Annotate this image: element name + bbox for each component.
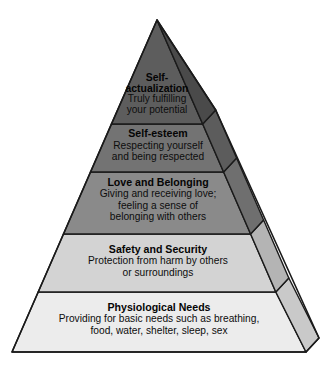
tier-desc-4-line1: Protection from harm by others <box>48 255 268 267</box>
tier-label-safety-and-security: Safety and Security Protection from harm… <box>48 243 268 279</box>
tier-title-2: Self-esteem <box>85 128 231 140</box>
tier-label-love-and-belonging: Love and Belonging Giving and receiving … <box>66 176 250 223</box>
tier-label-self-actualization: Self- actualization Truly fulfilling you… <box>101 72 213 116</box>
tier-desc-2-line1: Respecting yourself <box>85 140 231 151</box>
tier-desc-2-line2: and being respected <box>85 151 231 162</box>
tier-desc-3-line3: belonging with others <box>66 211 250 223</box>
tier-title-3: Love and Belonging <box>66 176 250 188</box>
tier-desc-3-line2: feeling a sense of <box>66 200 250 212</box>
tier-title-4: Safety and Security <box>48 243 268 255</box>
tier-title-1: Self- <box>101 72 213 83</box>
tier-desc-5-line1: Providing for basic needs such as breath… <box>18 313 300 325</box>
tier-title-5: Physiological Needs <box>18 301 300 313</box>
tier-label-physiological-needs: Physiological Needs Providing for basic … <box>18 301 300 337</box>
tier-desc-1-line2: your potential <box>101 105 213 116</box>
tier-desc-3-line1: Giving and receiving love; <box>66 188 250 200</box>
tier-desc-4-line2: or surroundings <box>48 267 268 279</box>
hierarchy-of-needs-diagram: Self- actualization Truly fulfilling you… <box>0 0 326 369</box>
tier-desc-5-line2: food, water, shelter, sleep, sex <box>18 325 300 337</box>
tier-label-self-esteem: Self-esteem Respecting yourself and bein… <box>85 128 231 163</box>
